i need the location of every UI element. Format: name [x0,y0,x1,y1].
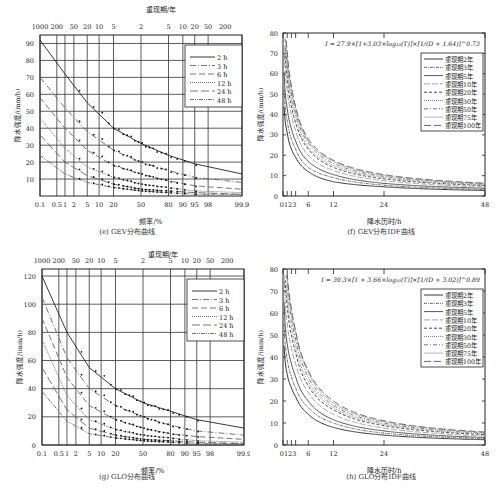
data-point [136,399,138,401]
data-point [178,414,180,416]
y-tick-label: 20 [26,159,34,167]
data-point [110,426,112,428]
data-point [170,187,172,189]
legend-label: 重现期30年 [445,97,477,106]
x-tick-label: 1 [65,450,69,458]
data-point [120,429,122,431]
data-point [120,389,122,391]
data-point [145,163,147,165]
data-point [93,182,95,184]
data-point [154,405,156,407]
y-tick-label: 30 [270,376,278,384]
data-point [132,411,134,413]
data-point [81,427,83,429]
y-tick-label: 0 [274,193,278,201]
data-point [178,434,180,436]
data-point [130,186,132,188]
data-point [122,168,124,170]
data-point [172,442,174,444]
x-tick-label: 12 [329,450,337,458]
data-point [113,150,115,152]
top-tick-label: 5 [113,257,117,265]
legend-label: 重现期3年 [445,299,473,308]
data-point [118,150,120,152]
data-point [167,437,169,439]
data-point [151,405,153,407]
x-tick-label: 0.5 [52,201,62,209]
top-tick-label: 20 [85,257,93,265]
y-tick-label: 40 [270,354,278,362]
data-point [151,419,153,421]
data-point [151,429,153,431]
legend-label: 2 h [217,54,227,62]
data-point [167,409,169,411]
data-point [110,436,112,438]
data-point [81,408,83,410]
data-point [93,168,95,170]
data-point [120,420,122,422]
data-point [110,401,112,403]
data-point [141,188,143,190]
y-tick-label: 120 [24,273,36,281]
data-point [143,427,145,429]
data-point [132,395,134,397]
data-point [130,189,132,191]
data-point [163,423,165,425]
data-point [138,141,140,143]
data-point [136,438,138,440]
top-tick-label: 10 [181,257,189,265]
legend-label: 2 h [219,288,229,296]
data-point [113,187,115,189]
data-point [118,177,120,179]
top-tick-label: 200 [51,23,63,31]
y-tick-label: 10 [270,172,278,180]
data-point [156,191,158,193]
data-point [176,188,178,190]
data-point [163,436,165,438]
data-point [108,161,110,163]
top-tick-label: 20 [193,257,201,265]
data-point [136,414,138,416]
y-tick-label: 50 [26,108,34,116]
y-tick-label: 50 [270,91,278,99]
data-point [176,182,178,184]
legend: 重现期2年重现期3年重现期5年重现期10年重现期20年重现期30年重现期50年重… [421,53,483,131]
top-tick-label: 200 [219,23,231,31]
y-tick-label: 80 [26,57,34,65]
y-tick-label: 60 [26,91,34,99]
data-point [115,405,117,407]
legend-label: 重现期3年 [445,63,473,72]
caption-h: (h) GLO分布IDF曲线 [258,471,496,481]
x-tick-label: 24 [380,450,388,458]
x-tick-label: 99.9 [237,450,250,458]
data-point [122,185,124,187]
data-point [170,192,172,194]
data-point [186,442,188,444]
data-point [120,437,122,439]
x-tick-label: 95 [191,201,199,209]
x-tick-label: 6 [306,450,310,458]
data-point [156,167,158,169]
data-point [197,436,199,438]
data-point [134,171,136,173]
top-tick-label: 1000 [34,257,51,265]
x-tick-label: 20 [109,201,117,209]
data-point [101,178,103,180]
data-point [143,440,145,442]
data-point [115,434,117,436]
panel-h-glo-idf: 0102030405060708001236122448I = 39.3×[1 … [250,245,496,495]
data-point [138,183,140,185]
data-point [165,169,167,171]
data-point [161,190,163,192]
data-point [79,139,81,141]
data-point [147,440,149,442]
data-point [149,189,151,191]
data-point [197,431,199,433]
data-point [128,431,130,433]
panel-g-glo-distribution: 重现期/年0.10.51251020508090959899.910002005… [0,245,250,495]
data-point [184,189,186,191]
x-axis-label: 降水历时/h [367,217,402,226]
data-point [140,434,142,436]
data-point [95,370,97,372]
y-tick-label: 90 [26,40,34,48]
